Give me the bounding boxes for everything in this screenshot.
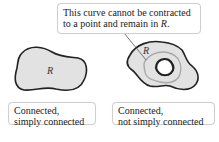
caption-left-line-1: Connected, (14, 105, 90, 116)
callout-line-2: to a point and remain in R. (63, 18, 195, 29)
region-label-left: R (46, 65, 53, 76)
caption-simply-connected: Connected, simply connected (8, 102, 96, 125)
region-label-right: R (142, 45, 149, 56)
caption-right-line-2: not simply connected (118, 116, 209, 127)
caption-right-line-1: Connected, (118, 105, 209, 116)
callout-line-2-suffix: . (167, 18, 170, 29)
region-hole (156, 59, 173, 75)
caption-not-simply-connected: Connected, not simply connected (112, 102, 215, 125)
callout-line-2-text: to a point and remain in (63, 18, 161, 29)
caption-left-line-2: simply connected (14, 116, 90, 127)
callout-line-1: This curve cannot be contracted (63, 7, 195, 18)
callout-box: This curve cannot be contracted to a poi… (57, 3, 201, 34)
